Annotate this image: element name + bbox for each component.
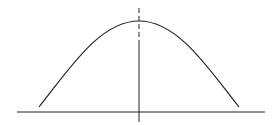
diagram-canvas xyxy=(0,0,273,125)
bell-curve-diagram xyxy=(0,0,273,125)
